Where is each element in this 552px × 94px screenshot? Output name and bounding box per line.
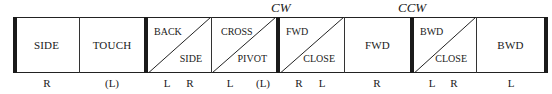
- step-cell: BWD: [477, 17, 548, 73]
- step-cell: FWD: [345, 17, 411, 73]
- foot-label: L: [215, 77, 245, 89]
- step-cell: CROSSPIVOT: [212, 17, 277, 73]
- step-label: SIDE: [14, 39, 79, 51]
- step-label-second: SIDE: [180, 53, 202, 64]
- step-label-first: BWD: [420, 26, 443, 37]
- step-label: TOUCH: [80, 39, 144, 51]
- step-label: BWD: [477, 39, 544, 51]
- foot-label: R: [32, 77, 62, 89]
- step-cell: BACKSIDE: [145, 17, 212, 73]
- foot-label: (L): [97, 77, 127, 89]
- step-label-first: FWD: [286, 26, 308, 37]
- step-cell: SIDE: [14, 17, 80, 73]
- step-label-second: PIVOT: [238, 53, 267, 64]
- step-label-second: CLOSE: [303, 53, 335, 64]
- rotation-label: CW: [271, 0, 291, 16]
- step-label-second: CLOSE: [435, 53, 467, 64]
- step-label-first: CROSS: [221, 26, 253, 37]
- foot-label: R: [175, 77, 205, 89]
- step-cell: BWDCLOSE: [411, 17, 477, 73]
- foot-label: (L): [248, 77, 278, 89]
- step-cell: TOUCH: [80, 17, 145, 73]
- foot-label: L: [307, 77, 337, 89]
- step-label: FWD: [345, 39, 410, 51]
- step-cell: FWDCLOSE: [277, 17, 345, 73]
- foot-label: R: [439, 77, 469, 89]
- foot-label: L: [496, 77, 526, 89]
- foot-label: R: [362, 77, 392, 89]
- rotation-label: CCW: [398, 0, 426, 16]
- step-label-first: BACK: [154, 26, 182, 37]
